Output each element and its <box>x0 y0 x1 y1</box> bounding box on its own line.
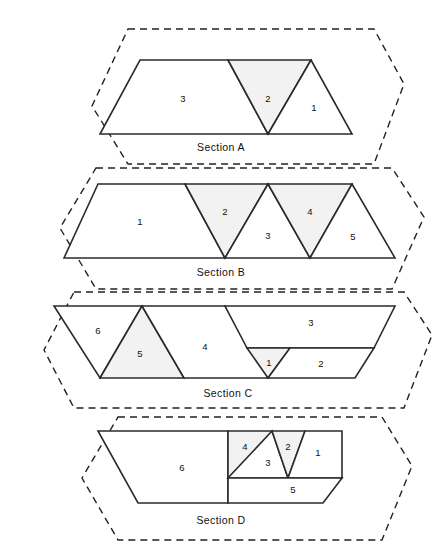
region-label-a-1: 1 <box>311 102 316 113</box>
region-label-c-4: 4 <box>202 341 207 352</box>
region-label-b-4: 4 <box>307 206 312 217</box>
region-label-d-1: 1 <box>315 447 320 458</box>
region-label-b-5: 5 <box>350 231 355 242</box>
section-group-d: 643215Section D <box>82 417 412 540</box>
region-label-b-2: 2 <box>222 206 227 217</box>
region-label-a-2: 2 <box>265 93 270 104</box>
section-caption-d: Section D <box>196 514 245 526</box>
section-caption-b: Section B <box>197 266 246 278</box>
region-label-c-1: 1 <box>266 357 271 368</box>
region-d-6[interactable] <box>98 431 228 503</box>
region-label-b-1: 1 <box>137 216 142 227</box>
sections-layer: 321Section A12345Section B654312Section … <box>44 29 432 540</box>
region-label-d-4: 4 <box>242 441 247 452</box>
region-label-b-3: 3 <box>265 230 270 241</box>
sections-svg-canvas: 321Section A12345Section B654312Section … <box>0 0 442 560</box>
region-label-d-3: 3 <box>265 457 270 468</box>
region-label-c-5: 5 <box>137 348 142 359</box>
region-label-a-3: 3 <box>180 93 185 104</box>
section-group-b: 12345Section B <box>60 168 424 289</box>
region-label-c-6: 6 <box>95 325 100 336</box>
region-label-d-6: 6 <box>179 462 184 473</box>
tangram-sections-diagram: 321Section A12345Section B654312Section … <box>0 0 442 560</box>
section-group-c: 654312Section C <box>44 292 432 408</box>
section-group-a: 321Section A <box>92 29 404 164</box>
region-label-d-5: 5 <box>290 484 295 495</box>
region-d-5[interactable] <box>228 478 342 503</box>
section-caption-a: Section A <box>197 141 245 153</box>
section-caption-c: Section C <box>203 387 252 399</box>
region-label-c-3: 3 <box>308 317 313 328</box>
region-label-c-2: 2 <box>318 358 323 369</box>
region-label-d-2: 2 <box>285 441 290 452</box>
